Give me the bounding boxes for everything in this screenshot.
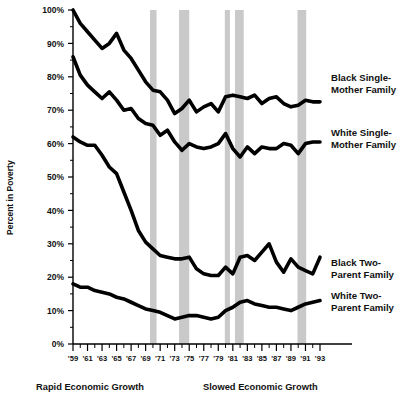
x-tick-label: '61 (82, 354, 93, 363)
y-tick-label: 70% (47, 105, 64, 115)
y-axis-title: Percent in Poverty (5, 160, 15, 235)
y-tick-label: 10% (47, 306, 64, 316)
poverty-rate-line-chart: 0%10%20%30%40%50%60%70%80%90%100% '59'61… (0, 0, 406, 409)
x-tick-label: '91 (300, 354, 311, 363)
annotation-rapid-economic-growth: Rapid Economic Growth (36, 382, 144, 392)
annotation-slowed-economic-growth: Slowed Economic Growth (203, 382, 318, 392)
y-tick-label: 0% (52, 339, 65, 349)
recession-band-3 (225, 10, 230, 344)
x-tick-label: '83 (242, 354, 252, 363)
series-labels-group: Black Single- Mother Family White Single… (331, 72, 397, 313)
x-tick-label: '75 (184, 354, 195, 363)
data-series-group (73, 10, 320, 319)
series-line-black-two-parent-family (73, 137, 320, 276)
x-tick-label: '81 (228, 354, 239, 363)
series-label-black-single-mother-line1: Black Single- (331, 72, 391, 83)
x-tick-label: '59 (68, 354, 78, 363)
y-tick-label: 40% (47, 206, 64, 216)
series-label-black-two-parent-line1: Black Two- (331, 257, 381, 268)
y-tick-label: 60% (47, 139, 64, 149)
y-tick-label: 20% (47, 272, 64, 282)
series-line-white-two-parent-family (73, 284, 320, 319)
x-tick-label: '73 (170, 354, 180, 363)
series-label-white-single-mother-line1: White Single- (331, 127, 392, 138)
recession-bands-group (150, 10, 306, 344)
y-tick-label: 90% (47, 39, 64, 49)
bottom-annotations-group: Rapid Economic Growth Slowed Economic Gr… (36, 382, 318, 392)
y-tick-label: 50% (47, 172, 64, 182)
x-tick-label: '65 (111, 354, 122, 363)
x-tick-label: '93 (315, 354, 325, 363)
x-tick-label: '77 (199, 354, 209, 363)
series-label-black-single-mother-line2: Mother Family (331, 84, 397, 95)
series-line-black-single-mother-family (73, 10, 320, 114)
y-tick-label: 100% (42, 5, 64, 15)
recession-band-2 (179, 10, 189, 344)
x-axis-ticks-group: '59'61'63'65'67'69'71'73'75'77'79'81'83'… (68, 344, 325, 363)
series-line-white-single-mother-family (73, 57, 320, 157)
x-tick-label: '87 (271, 354, 281, 363)
x-tick-label: '79 (213, 354, 223, 363)
recession-band-5 (297, 10, 306, 344)
x-tick-label: '69 (141, 354, 151, 363)
recession-band-1 (150, 10, 157, 344)
x-tick-label: '63 (97, 354, 107, 363)
y-tick-label: 80% (47, 72, 64, 82)
x-tick-label: '67 (126, 354, 136, 363)
x-tick-label: '71 (155, 354, 166, 363)
series-label-white-single-mother-line2: Mother Family (331, 139, 397, 150)
series-label-black-two-parent-line2: Parent Family (331, 269, 395, 280)
series-label-white-two-parent-line1: White Two- (331, 290, 381, 301)
series-label-white-two-parent-line2: Parent Family (331, 302, 395, 313)
y-axis-ticks-group: 0%10%20%30%40%50%60%70%80%90%100% (42, 5, 73, 349)
y-tick-label: 30% (47, 239, 64, 249)
x-tick-label: '89 (286, 354, 296, 363)
recession-band-4 (235, 10, 244, 344)
x-tick-label: '85 (257, 354, 268, 363)
